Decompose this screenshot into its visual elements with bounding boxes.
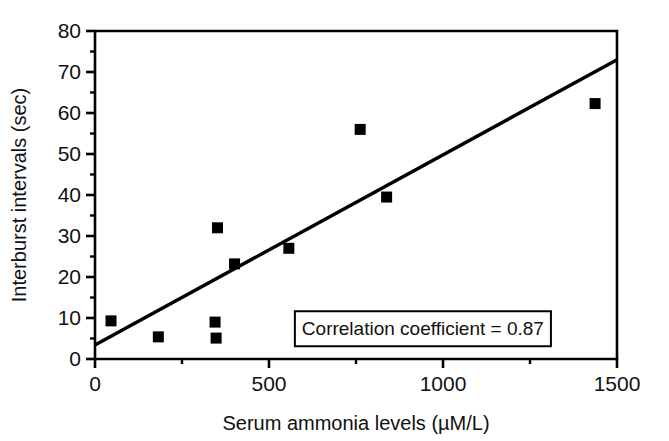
y-tick-label: 60 bbox=[58, 101, 81, 124]
data-point bbox=[210, 317, 221, 328]
data-point bbox=[590, 98, 601, 109]
x-axis-title: Serum ammonia levels (µM/L) bbox=[222, 412, 489, 434]
y-tick-label: 70 bbox=[58, 60, 81, 83]
y-tick-label: 40 bbox=[58, 183, 81, 206]
x-tick-label: 500 bbox=[251, 372, 286, 395]
data-point bbox=[229, 258, 240, 269]
data-point bbox=[212, 222, 223, 233]
plot-frame bbox=[95, 31, 617, 359]
data-point bbox=[381, 192, 392, 203]
scatter-plot: 01020304050607080050010001500Serum ammon… bbox=[0, 0, 669, 441]
x-tick-label: 0 bbox=[89, 372, 101, 395]
data-point bbox=[283, 243, 294, 254]
y-tick-label: 30 bbox=[58, 224, 81, 247]
correlation-annotation-text: Correlation coefficient = 0.87 bbox=[302, 318, 544, 339]
data-point bbox=[106, 315, 117, 326]
trend-line bbox=[95, 60, 617, 345]
y-tick-label: 80 bbox=[58, 19, 81, 42]
x-tick-label: 1500 bbox=[594, 372, 641, 395]
y-tick-label: 20 bbox=[58, 265, 81, 288]
y-tick-label: 0 bbox=[69, 347, 81, 370]
data-point bbox=[153, 331, 164, 342]
chart-figure: 01020304050607080050010001500Serum ammon… bbox=[0, 0, 669, 441]
y-tick-label: 10 bbox=[58, 306, 81, 329]
y-tick-label: 50 bbox=[58, 142, 81, 165]
x-tick-label: 1000 bbox=[420, 372, 467, 395]
data-point bbox=[355, 124, 366, 135]
data-point bbox=[211, 333, 222, 344]
y-axis-title: Interburst intervals (sec) bbox=[8, 88, 30, 303]
